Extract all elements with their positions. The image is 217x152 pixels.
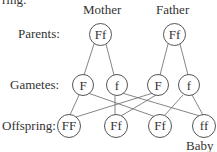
row-label-offspring: Offspring: xyxy=(2,118,56,134)
gamete-node: f xyxy=(106,74,128,96)
row-label-parents: Parents: xyxy=(18,26,60,42)
parent-node-father: Ff xyxy=(163,23,186,46)
gamete-node: F xyxy=(72,74,94,96)
father-label: Father xyxy=(156,2,189,18)
baby-label: Baby xyxy=(186,138,213,152)
offspring-node: Ff xyxy=(104,114,128,138)
mother-label: Mother xyxy=(83,2,121,18)
row-label-gametes: Gametes: xyxy=(10,77,59,93)
offspring-node: Ff xyxy=(148,114,172,138)
offspring-node-baby: ff xyxy=(192,114,216,138)
gamete-node: f xyxy=(178,74,200,96)
gamete-node: F xyxy=(147,74,169,96)
header-fragment: ring: xyxy=(2,0,27,8)
offspring-node: FF xyxy=(57,114,81,138)
parent-node-mother: Ff xyxy=(89,23,112,46)
